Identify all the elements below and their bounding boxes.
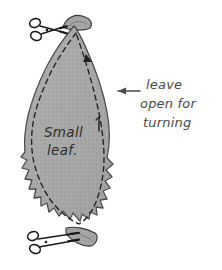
leaf-diagram-svg: leave open for turning Small leaf. [0,0,222,270]
annotation-line-3: turning [143,115,191,130]
annotation-line-2: open for [140,96,198,111]
leaf-label-line-1: Small [44,124,83,140]
leaf-label-line-2: leaf. [47,142,78,158]
annotation-line-1: leave [146,77,182,92]
bottom-fabric-tab [66,227,97,246]
leave-open-arrow [118,88,140,95]
scissors-icon-bottom [26,230,79,255]
top-fabric-tab [63,15,91,30]
scissors-icon-top [28,17,67,42]
diagram-canvas: leave open for turning Small leaf. [0,0,222,270]
